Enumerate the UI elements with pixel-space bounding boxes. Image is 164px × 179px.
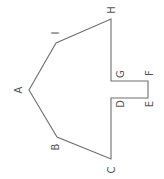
vertex-label-c: C: [106, 166, 117, 173]
vertex-label-h: H: [106, 6, 117, 14]
vertex-label-b: B: [50, 143, 61, 150]
vertex-label-d: D: [115, 100, 126, 108]
vertex-label-g: G: [115, 70, 126, 78]
vertex-label-f: F: [144, 70, 155, 76]
polygon-diagram: A B C D E F G H I: [0, 0, 164, 179]
vertex-label-a: A: [13, 86, 24, 93]
vertex-label-i: I: [50, 32, 61, 35]
vertex-label-e: E: [144, 101, 155, 107]
polygon-outline: [29, 19, 148, 159]
